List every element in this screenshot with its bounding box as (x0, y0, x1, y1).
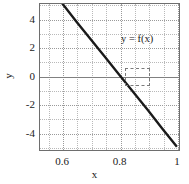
chart-figure: y = f(x) 420-2-4 0.60.81 x y (0, 0, 189, 184)
y-tickmark (39, 77, 40, 78)
y-tick-label: -2 (5, 98, 35, 110)
x-tick-label: 0.6 (42, 155, 82, 167)
x-tickmark (63, 150, 64, 151)
y-tickmark (39, 134, 40, 135)
x-tick-label: 0.8 (100, 155, 140, 167)
x-tick-label: 1 (157, 155, 189, 167)
series-line-y-equals-f-of-x (63, 4, 176, 146)
y-axis-label: y (2, 66, 14, 86)
curve-label: y = f(x) (121, 33, 153, 44)
y-tickmark (39, 48, 40, 49)
y-tickmark (39, 105, 40, 106)
root-highlight-box (125, 68, 151, 86)
x-tickmark (178, 150, 179, 151)
curve-svg (40, 4, 179, 150)
y-tick-label: 4 (5, 13, 35, 25)
y-tick-label: 2 (5, 41, 35, 53)
y-tickmark (39, 20, 40, 21)
x-tickmark (121, 150, 122, 151)
x-axis-label: x (0, 168, 189, 180)
plot-area (39, 3, 180, 151)
y-tick-label: -4 (5, 127, 35, 139)
